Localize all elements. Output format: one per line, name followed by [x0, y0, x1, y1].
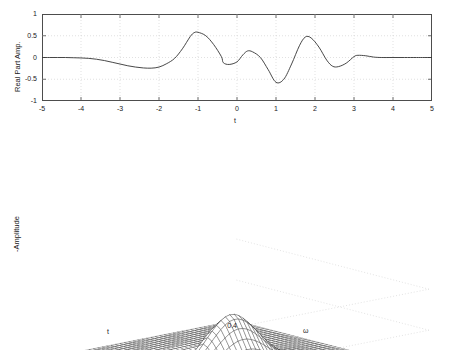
matlab-figure: 10.50-0.5-1 -5-4-3-2-1012345 Real Part A… [0, 0, 449, 350]
real-part-plot: 10.50-0.5-1 -5-4-3-2-1012345 Real Part A… [0, 0, 449, 140]
surface-z-tick: 0.4 [0, 322, 237, 329]
top-x-tick: -1 [188, 105, 208, 112]
surface-mesh [49, 314, 429, 350]
top-x-tick: 3 [344, 105, 364, 112]
top-x-tick: 2 [305, 105, 325, 112]
top-y-axis-label: Real Part Amp. [14, 42, 22, 92]
top-x-axis-label: t [234, 117, 236, 124]
top-x-tick: 4 [383, 105, 403, 112]
surface-x-axis-label: t [107, 328, 109, 335]
surface-z-axis-label: -Amplitude [13, 216, 21, 252]
amplitude-surface-plot: 0.40.20-0.2-0.4 50-5 0123456 -Amplitude … [0, 140, 449, 350]
surface-canvas [0, 140, 449, 350]
real-part-curve-canvas [42, 14, 432, 101]
top-x-tick: 0 [227, 105, 247, 112]
top-x-tick: -3 [110, 105, 130, 112]
top-x-tick: 1 [266, 105, 286, 112]
top-x-tick: -5 [32, 105, 52, 112]
top-y-tick: 0.5 [0, 32, 37, 39]
surface-y-axis-label: ω [303, 327, 308, 334]
top-x-tick: 5 [422, 105, 442, 112]
top-y-tick: -1 [0, 97, 37, 104]
top-y-tick: 1 [0, 10, 37, 17]
top-x-tick: -2 [149, 105, 169, 112]
top-x-tick: -4 [71, 105, 91, 112]
